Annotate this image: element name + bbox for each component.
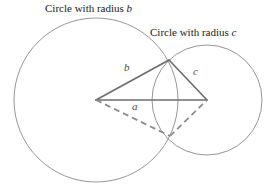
- geometry-diagram: Circle with radius b Circle with radius …: [0, 0, 268, 187]
- triangle-edge-c: [169, 60, 207, 100]
- side-label-c: c: [193, 66, 198, 77]
- caption-circle-c: Circle with radius c: [150, 27, 236, 38]
- triangle-edge-b: [96, 60, 169, 100]
- caption-circle-c-variable: c: [232, 26, 237, 38]
- caption-circle-b-variable: b: [127, 2, 133, 14]
- side-label-a: a: [132, 101, 138, 112]
- caption-circle-b: Circle with radius b: [45, 3, 132, 14]
- caption-circle-c-prefix: Circle with radius: [150, 26, 232, 38]
- side-label-b: b: [124, 62, 130, 73]
- caption-circle-b-prefix: Circle with radius: [45, 2, 127, 14]
